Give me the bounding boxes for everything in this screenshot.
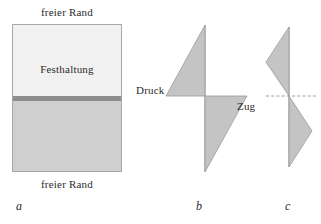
stress-distribution-figure: freier Rand Festhaltung freier Rand Druc… xyxy=(0,0,321,224)
panel-label-b: b xyxy=(196,200,202,213)
zug-label: Zug xyxy=(237,100,255,112)
panel-label-a: a xyxy=(16,200,22,213)
druck-triangle xyxy=(166,25,205,96)
panel-label-c: c xyxy=(285,200,290,213)
druck-label: Druck xyxy=(136,84,165,96)
lower-stress-triangle-c xyxy=(289,96,312,167)
upper-stress-triangle-c xyxy=(266,27,289,96)
stress-profile-svg xyxy=(0,0,321,224)
